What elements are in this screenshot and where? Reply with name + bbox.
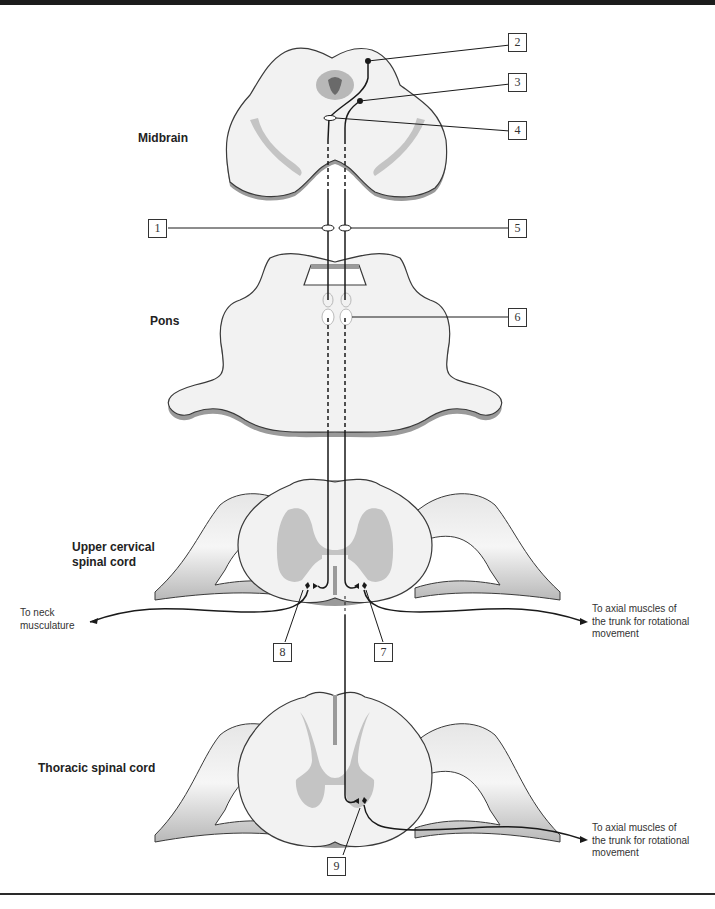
callout-3: 3 [508,73,527,92]
midbrain-section [226,48,446,201]
callout-1: 1 [148,219,167,238]
callout-6: 6 [508,308,527,327]
callout-8: 8 [273,643,292,662]
annotation-to-neck: To neck musculature [20,607,74,632]
label-pons: Pons [150,314,179,329]
tract-marker-1 [322,225,334,231]
tract-marker-5 [339,225,351,231]
pons-section [168,254,501,438]
annotation-axial-thoracic: To axial muscles of the trunk for rotati… [592,822,689,860]
reticular-nucleus-right [340,309,352,325]
neuron-cell-body-2 [365,58,371,64]
tract-marker-4 [324,116,336,121]
bottom-border [0,893,715,895]
annotation-axial-cervical: To axial muscles of the trunk for rotati… [592,603,689,641]
neuron-cell-body-3 [357,98,363,104]
label-upper-cervical: Upper cervical spinal cord [72,540,155,570]
callout-7: 7 [374,643,393,662]
callout-4: 4 [508,121,527,140]
label-midbrain: Midbrain [138,131,188,146]
thoracic-section [155,692,560,848]
arrow-to-axial-cervical [580,618,588,625]
callout-5: 5 [508,219,527,238]
callout-2: 2 [508,33,527,52]
arrow-to-axial-thoracic [580,836,588,843]
reticular-nucleus-left [322,309,334,325]
label-thoracic: Thoracic spinal cord [38,761,155,776]
callout-9: 9 [327,857,346,876]
